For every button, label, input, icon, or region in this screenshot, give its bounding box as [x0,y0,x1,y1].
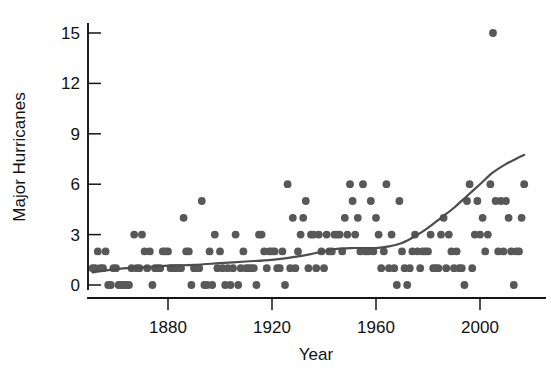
data-point [315,231,323,239]
data-point [94,248,102,256]
data-point [284,180,292,188]
data-point [515,248,523,256]
data-point [130,231,138,239]
data-point [227,281,235,289]
data-point [102,248,110,256]
data-point [372,214,380,222]
data-point [435,264,443,272]
data-point [367,197,375,205]
data-point [453,248,461,256]
data-point [263,264,271,272]
data-point [312,264,320,272]
data-point [232,231,240,239]
data-point [240,248,248,256]
data-point [481,248,489,256]
data-point [138,231,146,239]
x-tick-label: 2000 [461,318,499,337]
data-point [297,231,305,239]
data-point [258,231,266,239]
data-point [396,197,404,205]
x-axis-title: Year [299,345,334,364]
y-tick-label: 3 [71,226,80,245]
data-point [398,248,406,256]
data-point [424,248,432,256]
data-point [253,281,261,289]
data-point [341,214,349,222]
x-tick-label: 1880 [149,318,187,337]
data-point [234,281,242,289]
x-tick-label: 1960 [357,318,395,337]
data-point [146,248,154,256]
data-point [351,231,359,239]
data-point [500,248,508,256]
data-point [458,264,466,272]
data-point [125,281,133,289]
data-point [461,281,469,289]
data-point [302,197,310,205]
data-point [271,248,279,256]
y-axis-title: Major Hurricanes [10,92,29,221]
data-point [476,231,484,239]
data-point [294,248,302,256]
data-point [442,264,450,272]
data-point [427,231,435,239]
data-point [198,197,206,205]
data-point [349,197,357,205]
data-point [336,231,344,239]
data-point [188,281,196,289]
data-point [323,231,331,239]
data-point [289,214,297,222]
data-point [403,281,411,289]
data-point [520,180,528,188]
data-point [185,248,193,256]
data-point [216,248,224,256]
data-point [149,281,157,289]
data-point [276,264,284,272]
data-point [416,264,424,272]
data-point [502,197,510,205]
data-point [250,264,258,272]
data-point [354,214,362,222]
data-point [487,180,495,188]
data-point [377,264,385,272]
data-point [375,231,383,239]
data-point [390,264,398,272]
x-tick-label: 1920 [253,318,291,337]
data-point [344,231,352,239]
data-point [359,180,367,188]
hurricane-scatter-chart: 03691215 Major Hurricanes 18801920196020… [0,0,551,390]
data-point [505,214,513,222]
data-point [320,264,328,272]
data-point [180,214,188,222]
data-point [510,281,518,289]
y-tick-label: 12 [61,74,80,93]
y-tick-label: 0 [71,276,80,295]
data-point [393,281,401,289]
data-point [299,214,307,222]
y-tick-label: 9 [71,125,80,144]
data-point [406,264,414,272]
data-point [206,248,214,256]
y-tick-label: 15 [61,24,80,43]
data-point [279,248,287,256]
data-point [489,29,497,37]
data-point [466,180,474,188]
data-point [518,214,526,222]
data-point [468,264,476,272]
data-point [346,180,354,188]
data-point [388,231,396,239]
data-point [305,264,313,272]
data-point [474,197,482,205]
data-point [211,231,219,239]
data-point [107,281,115,289]
data-point [229,264,237,272]
data-point [164,248,172,256]
data-point [484,231,492,239]
data-point [437,231,445,239]
y-tick-label: 6 [71,175,80,194]
data-point [208,281,216,289]
data-point [445,231,453,239]
data-point [281,281,289,289]
data-point [383,180,391,188]
data-point [292,264,300,272]
